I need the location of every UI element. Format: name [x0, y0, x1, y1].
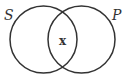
venn-diagram: S P x [0, 0, 126, 78]
circle-s [10, 6, 77, 73]
label-s: S [4, 7, 14, 23]
intersection-mark: x [59, 34, 67, 48]
label-p: P [111, 7, 122, 23]
